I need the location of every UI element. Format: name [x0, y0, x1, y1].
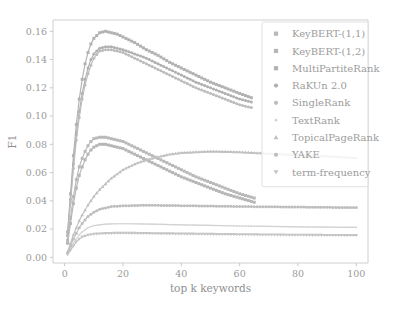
series-marker: [232, 95, 235, 98]
series-marker: [87, 153, 90, 156]
series-marker: [241, 104, 244, 107]
series-marker: [124, 204, 127, 207]
series-marker: [346, 206, 349, 209]
series-marker: [203, 184, 206, 187]
series-marker: [218, 90, 221, 93]
series-marker: [154, 52, 157, 55]
series-marker: [136, 147, 139, 150]
series-marker: [92, 57, 95, 60]
series-marker: [192, 204, 195, 207]
y-axis-label: F1: [6, 135, 18, 149]
series-marker: [142, 56, 145, 59]
series-marker: [183, 75, 186, 78]
series-marker: [69, 245, 72, 248]
series-marker: [95, 136, 98, 139]
series-marker: [227, 193, 230, 196]
series-marker: [356, 227, 358, 229]
series-marker: [238, 98, 241, 101]
series-marker: [139, 204, 142, 207]
series-marker: [280, 226, 282, 228]
series-marker: [111, 223, 113, 225]
series-marker: [215, 89, 218, 92]
series-marker: [194, 86, 197, 89]
series-marker: [232, 90, 235, 93]
series-marker: [119, 204, 122, 207]
series-marker: [247, 205, 250, 208]
series-marker: [291, 205, 294, 208]
legend-label: YAKE: [291, 149, 320, 160]
legend-layer[interactable]: KeyBERT-(1,1)KeyBERT-(1,2)MultiPartiteRa…: [262, 22, 380, 187]
series-marker: [177, 78, 180, 81]
series-marker: [116, 146, 119, 149]
series-marker: [238, 103, 241, 106]
series-marker: [347, 227, 349, 229]
series-marker: [192, 224, 194, 226]
series-marker: [84, 150, 87, 153]
series-marker: [337, 206, 340, 209]
series-marker: [116, 50, 119, 53]
series-marker: [148, 64, 151, 67]
series-marker: [84, 83, 87, 86]
series-marker: [142, 46, 145, 49]
series-marker: [116, 47, 119, 50]
series-marker: [168, 61, 171, 64]
series-marker: [81, 231, 83, 233]
series-marker: [107, 144, 110, 147]
series-marker: [165, 204, 168, 207]
series-marker: [139, 55, 142, 58]
series-marker: [142, 204, 145, 207]
y-tick-label: 0.08: [26, 139, 47, 150]
series-marker: [136, 53, 139, 56]
series-marker: [227, 225, 229, 227]
series-marker: [113, 205, 116, 208]
series-marker: [218, 184, 221, 187]
series-marker: [200, 76, 203, 79]
series-marker: [235, 196, 238, 199]
series-marker: [122, 51, 125, 54]
series-marker: [247, 199, 250, 202]
series-marker: [180, 79, 183, 82]
series-marker: [181, 224, 183, 226]
series-marker: [122, 35, 125, 38]
series-marker: [227, 99, 230, 102]
series-marker: [113, 32, 116, 35]
series-marker: [122, 140, 125, 143]
series-marker: [133, 153, 136, 156]
series-marker: [250, 200, 253, 203]
series-marker: [124, 148, 127, 151]
series-marker: [78, 234, 80, 236]
series-marker: [157, 62, 160, 65]
series-marker: [171, 171, 174, 174]
series-marker: [165, 168, 168, 171]
series-marker: [189, 83, 192, 86]
series-marker: [92, 37, 95, 40]
series-marker: [113, 145, 116, 148]
series-marker: [353, 227, 355, 229]
series-marker: [124, 49, 127, 52]
series-marker: [165, 72, 168, 75]
series-marker: [238, 92, 241, 95]
series-marker: [125, 223, 127, 225]
series-marker: [203, 84, 206, 87]
series-marker: [192, 174, 195, 177]
legend-label: KeyBERT-(1,2): [292, 46, 365, 57]
series-marker: [127, 50, 130, 53]
series-marker: [168, 68, 171, 71]
series-marker: [186, 204, 189, 207]
series-marker: [92, 137, 95, 140]
y-tick-label: 0.02: [26, 223, 47, 234]
series-marker: [238, 197, 241, 200]
series-marker: [194, 204, 197, 207]
series-marker: [119, 139, 122, 142]
series-marker: [244, 194, 247, 197]
series-marker: [224, 86, 227, 89]
series-marker: [89, 140, 92, 143]
series-marker: [242, 225, 244, 227]
series-marker: [183, 204, 186, 207]
series-marker: [200, 83, 203, 86]
series-marker: [127, 143, 130, 146]
series-marker: [232, 190, 235, 193]
series-marker: [130, 55, 133, 58]
series-marker: [133, 52, 136, 55]
series-marker: [250, 106, 253, 109]
